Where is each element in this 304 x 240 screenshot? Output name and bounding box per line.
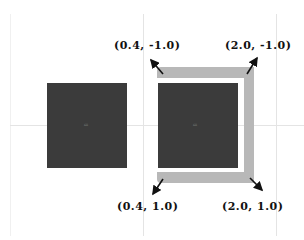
corner-label-bottom-left: (0.4, 1.0) (117, 200, 178, 213)
corner-label-bottom-right: (2.0, 1.0) (222, 200, 283, 213)
arrow-bottom-right-icon (250, 178, 262, 190)
right-square-label: fill (193, 123, 197, 127)
corner-label-top-right: (2.0, -1.0) (225, 39, 291, 52)
arrow-top-right-icon (247, 58, 257, 74)
arrow-bottom-left-icon (153, 179, 163, 194)
arrow-top-left-icon (151, 60, 163, 74)
corner-label-top-left: (0.4, -1.0) (114, 39, 180, 52)
left-square-label: fill (84, 123, 88, 127)
